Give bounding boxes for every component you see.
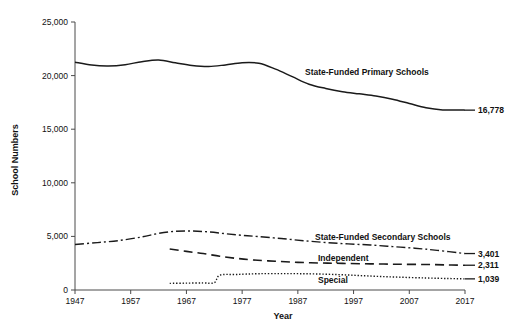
series-label-independent: Independent bbox=[318, 253, 369, 263]
end-value-special: 1,039 bbox=[478, 274, 500, 284]
x-tick-label: 2007 bbox=[400, 296, 419, 306]
end-value-state-funded-primary-schools: 16,778 bbox=[478, 105, 504, 115]
school-numbers-line-chart: 05,00010,00015,00020,00025,000 194719571… bbox=[0, 0, 515, 335]
x-axis-title: Year bbox=[273, 311, 293, 321]
y-tick-label: 15,000 bbox=[42, 124, 68, 134]
chart-container: 05,00010,00015,00020,00025,000 194719571… bbox=[0, 0, 515, 335]
y-tick-label: 10,000 bbox=[42, 178, 68, 188]
y-tick-label: 25,000 bbox=[42, 17, 68, 27]
series-label-state-funded-secondary-schools: State-Funded Secondary Schools bbox=[315, 232, 451, 242]
y-axis-title: School Numbers bbox=[10, 124, 20, 196]
x-tick-label: 1977 bbox=[233, 296, 252, 306]
series-label-state-funded-primary-schools: State-Funded Primary Schools bbox=[305, 67, 429, 77]
end-value-independent: 2,311 bbox=[478, 260, 499, 270]
series-label-special: Special bbox=[318, 275, 348, 285]
x-tick-label: 1957 bbox=[121, 296, 140, 306]
x-tick-label: 1947 bbox=[66, 296, 85, 306]
x-tick-label: 1967 bbox=[177, 296, 196, 306]
end-value-state-funded-secondary-schools: 3,401 bbox=[478, 249, 500, 259]
y-tick-label: 20,000 bbox=[42, 71, 68, 81]
x-tick-label: 1997 bbox=[344, 296, 363, 306]
x-tick-label: 1987 bbox=[288, 296, 307, 306]
x-tick-label: 2017 bbox=[456, 296, 475, 306]
chart-background bbox=[0, 0, 515, 335]
y-tick-label: 5,000 bbox=[47, 231, 69, 241]
y-tick-label: 0 bbox=[63, 285, 68, 295]
